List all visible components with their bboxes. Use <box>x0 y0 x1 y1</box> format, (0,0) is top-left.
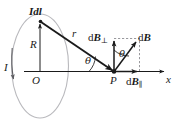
physics-diagram-figure: Idl R I O r P θ θ dB⊥ dB dB∥ x <box>0 0 177 129</box>
dB-B: B <box>144 31 151 43</box>
label-current-element: Idl <box>29 6 42 17</box>
dB-perp-subscript: ⊥ <box>101 36 108 45</box>
r-vector <box>41 22 113 71</box>
point-current-element-dot <box>39 20 43 24</box>
dB-vector <box>115 42 137 71</box>
label-radius: R <box>30 39 37 50</box>
dB-perp-B: B <box>94 31 101 43</box>
dB-par-B: B <box>132 75 139 87</box>
label-dB-perp: dB⊥ <box>88 32 108 44</box>
label-current: I <box>4 62 8 73</box>
label-origin: O <box>32 75 40 86</box>
dB-par-subscript: ∥ <box>139 80 143 89</box>
label-theta-at-P: θ <box>85 56 91 66</box>
label-field-point: P <box>110 75 117 86</box>
label-dB: dB <box>138 32 151 43</box>
label-axis-x: x <box>166 74 171 85</box>
label-distance-vector: r <box>72 28 76 39</box>
label-theta-at-dB: θ <box>119 49 125 59</box>
label-dB-par: dB∥ <box>126 76 142 88</box>
